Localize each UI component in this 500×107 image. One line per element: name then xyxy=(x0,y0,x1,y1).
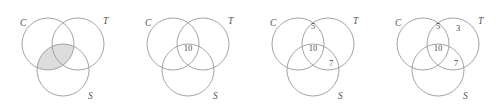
set-label-c: C xyxy=(395,18,402,28)
region-count-c-and-t-and-s: 10 xyxy=(184,43,193,53)
region-count-c-and-t-and-s: 10 xyxy=(434,43,443,53)
region-count-t-only: 3 xyxy=(456,23,460,33)
set-label-c: C xyxy=(145,18,152,28)
venn-panel: CTS10 xyxy=(125,0,250,107)
set-label-s: S xyxy=(463,91,468,101)
venn-diagram-figure: CTSCTS10CTS5107CTS53107 xyxy=(0,0,500,107)
region-count-c-and-t-only: 5 xyxy=(311,21,315,31)
set-label-c: C xyxy=(270,18,277,28)
venn-panel: CTS5107 xyxy=(250,0,375,107)
region-count-c-and-t-only: 5 xyxy=(436,21,440,31)
set-label-s: S xyxy=(213,91,218,101)
venn-panel: CTS xyxy=(0,0,125,107)
set-label-s: S xyxy=(88,91,93,101)
set-label-t: T xyxy=(228,16,234,26)
set-label-s: S xyxy=(338,91,343,101)
venn-panel: CTS53107 xyxy=(375,0,500,107)
region-count-c-and-t-and-s: 10 xyxy=(309,43,318,53)
set-label-t: T xyxy=(103,16,109,26)
set-label-c: C xyxy=(20,18,27,28)
set-label-t: T xyxy=(353,16,359,26)
set-label-t: T xyxy=(478,16,484,26)
region-count-t-and-s-only: 7 xyxy=(454,58,458,68)
region-count-t-and-s-only: 7 xyxy=(329,58,333,68)
